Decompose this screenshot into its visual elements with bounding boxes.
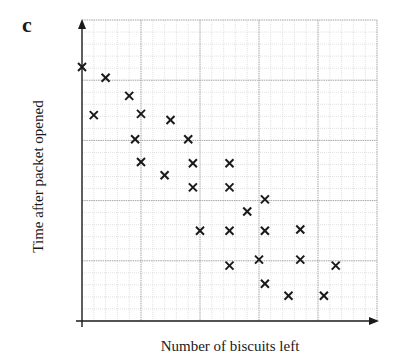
data-point-x-marker <box>320 292 328 300</box>
data-point-x-marker <box>261 280 269 288</box>
data-point-x-marker <box>131 135 139 143</box>
data-point-x-marker <box>332 262 340 270</box>
data-point-x-marker <box>189 183 197 191</box>
y-axis-arrow-icon <box>78 19 86 29</box>
scatter-plot <box>0 0 395 361</box>
data-point-x-marker <box>296 225 304 233</box>
data-point-x-marker <box>226 262 234 270</box>
data-point-x-marker <box>167 116 175 124</box>
data-point-x-marker <box>261 195 269 203</box>
data-point-x-marker <box>189 159 197 167</box>
axes <box>76 19 379 327</box>
data-point-x-marker <box>226 183 234 191</box>
grid-minor <box>82 20 377 321</box>
data-point-x-marker <box>226 159 234 167</box>
data-point-x-marker <box>285 292 293 300</box>
grid-major <box>82 20 377 321</box>
x-axis-arrow-icon <box>369 317 379 325</box>
data-point-x-marker <box>296 256 304 264</box>
data-point-x-marker <box>261 227 269 235</box>
data-point-x-marker <box>226 227 234 235</box>
